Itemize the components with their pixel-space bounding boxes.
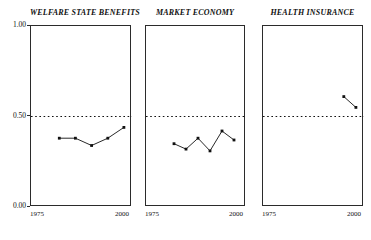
panel-title: MARKET ECONOMY: [145, 8, 245, 17]
series-layer: 1982: 0.381986: 0.381990: 0.341994: 0.38…: [31, 26, 132, 207]
chart-panel-health-insurance: HEALTH INSURANCE 1995: 0.611998: 0.55197…: [262, 0, 363, 240]
data-point-marker: 1991: 0.31: [209, 150, 212, 153]
x-axis-tick-label: 1975: [262, 210, 276, 218]
series-layer: 1995: 0.611998: 0.55: [263, 26, 364, 207]
data-point-marker: 1986: 0.38: [74, 137, 77, 140]
y-axis-tick-mark: [27, 206, 30, 207]
y-axis-tick-label: 0.00: [2, 201, 26, 210]
data-point-marker: 1990: 0.34: [90, 144, 93, 147]
data-point-marker: 1997: 0.37: [233, 139, 236, 142]
data-line: [174, 131, 234, 151]
panel-title: WELFARE STATE BENEFITS: [30, 8, 131, 17]
plot-frame: 1982: 0.381986: 0.381990: 0.341994: 0.38…: [30, 25, 131, 206]
y-axis-tick-label: 1.00: [2, 20, 26, 29]
chart-panel-market-economy: MARKET ECONOMY 1982: 0.351985: 0.321988:…: [145, 0, 245, 240]
data-point-marker: 1995: 0.61: [342, 95, 345, 98]
plot-frame: 1982: 0.351985: 0.321988: 0.381991: 0.31…: [145, 25, 245, 206]
series-layer: 1982: 0.351985: 0.321988: 0.381991: 0.31…: [146, 26, 246, 207]
x-axis-tick-label: 1975: [145, 210, 159, 218]
data-line: [344, 97, 356, 108]
y-axis-tick-mark: [27, 115, 30, 116]
data-point-marker: 1998: 0.55: [355, 106, 358, 109]
y-axis-tick-mark: [27, 25, 30, 26]
chart-panel-welfare-state-benefits: WELFARE STATE BENEFITS 1982: 0.381986: 0…: [30, 0, 131, 240]
data-point-marker: 1994: 0.42: [221, 130, 224, 133]
panel-title: HEALTH INSURANCE: [262, 8, 363, 17]
data-point-marker: 1982: 0.35: [173, 142, 176, 145]
plot-frame: 1995: 0.611998: 0.55: [262, 25, 363, 206]
data-point-marker: 1994: 0.38: [106, 137, 109, 140]
y-axis-tick-label: 0.50: [2, 111, 26, 120]
data-point-marker: 1985: 0.32: [185, 148, 188, 151]
data-point-marker: 1982: 0.38: [58, 137, 61, 140]
data-point-marker: 1988: 0.38: [197, 137, 200, 140]
x-axis-tick-label: 2000: [347, 210, 361, 218]
multi-panel-line-chart: WELFARE STATE BENEFITS 1982: 0.381986: 0…: [0, 0, 371, 240]
x-axis-tick-label: 1975: [30, 210, 44, 218]
data-line: [59, 127, 124, 145]
x-axis-tick-label: 2000: [115, 210, 129, 218]
x-axis-tick-label: 2000: [229, 210, 243, 218]
data-point-marker: 1998: 0.44: [123, 126, 126, 129]
